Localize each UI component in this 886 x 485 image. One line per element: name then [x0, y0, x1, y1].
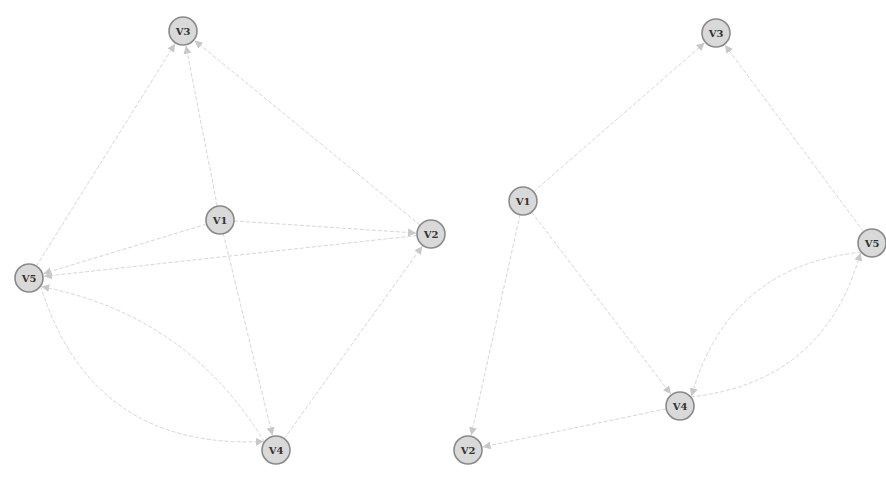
node-v5[interactable]: V5 — [858, 229, 886, 257]
graph-left: V1V2V3V4V5 — [15, 17, 445, 464]
edge-v4-to-v2 — [284, 246, 422, 438]
node-v1[interactable]: V1 — [509, 187, 537, 215]
node-label: V1 — [515, 196, 531, 207]
node-label: V4 — [268, 445, 284, 456]
graph-right: V1V2V3V4V5 — [454, 19, 886, 464]
edge-v1-to-v4 — [532, 212, 671, 394]
node-v4[interactable]: V4 — [262, 436, 290, 464]
edge-v1-to-v3 — [534, 43, 705, 192]
edge-v5-to-v3 — [725, 45, 864, 232]
node-v2[interactable]: V2 — [417, 220, 445, 248]
edge-v1-to-v2 — [471, 215, 520, 436]
edge-layer — [471, 43, 863, 447]
edge-v2-to-v3 — [195, 41, 421, 226]
node-label: V2 — [460, 445, 476, 456]
edge-v1-to-v5 — [43, 224, 206, 274]
edge-v2-to-v5 — [44, 236, 417, 277]
node-label: V1 — [212, 215, 228, 226]
edge-v1-to-v3 — [186, 46, 217, 207]
edge-v5-to-v4 — [691, 252, 861, 396]
edge-v1-to-v4 — [223, 234, 272, 436]
node-label: V3 — [708, 28, 724, 39]
node-layer: V1V2V3V4V5 — [454, 19, 886, 464]
node-v3[interactable]: V3 — [169, 17, 197, 45]
node-label: V4 — [672, 401, 688, 412]
node-label: V5 — [864, 238, 880, 249]
node-v3[interactable]: V3 — [702, 19, 730, 47]
edge-v4-to-v5 — [41, 287, 264, 442]
node-label: V3 — [175, 26, 191, 37]
edge-v5-to-v4 — [40, 286, 263, 442]
edge-layer — [36, 41, 422, 442]
node-layer: V1V2V3V4V5 — [15, 17, 445, 464]
node-v4[interactable]: V4 — [666, 392, 694, 420]
node-v2[interactable]: V2 — [454, 436, 482, 464]
node-v1[interactable]: V1 — [206, 206, 234, 234]
edge-v4-to-v5 — [691, 253, 861, 397]
edge-v1-to-v2 — [234, 221, 416, 233]
edge-v4-to-v2 — [483, 409, 667, 447]
edge-v5-to-v3 — [36, 44, 175, 266]
node-v5[interactable]: V5 — [15, 264, 43, 292]
graph-canvas: V1V2V3V4V5 V1V2V3V4V5 — [0, 0, 886, 485]
node-label: V5 — [21, 273, 37, 284]
node-label: V2 — [423, 229, 439, 240]
